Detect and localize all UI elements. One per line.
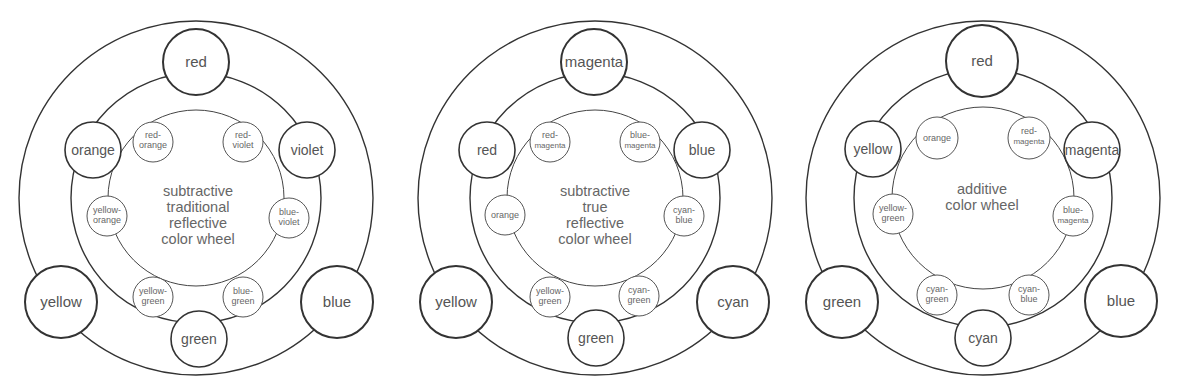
svg-text:orange: orange	[923, 133, 951, 143]
primary-node: blue	[301, 266, 373, 338]
svg-text:yellow-: yellow-	[879, 203, 907, 213]
tertiary-node: orange	[916, 117, 958, 159]
svg-text:blue-: blue-	[1063, 205, 1083, 215]
svg-text:cyan-: cyan-	[628, 285, 650, 295]
color-wheel-subtractive-traditional: subtractive traditional reflective color…	[0, 0, 394, 392]
secondary-node: violet	[279, 122, 335, 178]
svg-text:green: green	[231, 296, 254, 306]
wheel-title-line-3: reflective	[566, 215, 624, 231]
svg-text:violet: violet	[232, 140, 254, 150]
primary-node: cyan	[697, 266, 769, 338]
secondary-node: cyan	[955, 310, 1011, 366]
svg-text:cyan-: cyan-	[926, 284, 948, 294]
svg-text:violet: violet	[291, 142, 324, 158]
svg-text:yellow: yellow	[435, 293, 477, 310]
svg-text:green: green	[538, 296, 561, 306]
svg-text:yellow-: yellow-	[93, 205, 121, 215]
wheel-title-line-4: color wheel	[558, 231, 631, 247]
tertiary-node: cyan- blue	[1009, 275, 1049, 315]
wheel-diagram: additive color wheel orange red- magenta…	[790, 0, 1182, 392]
svg-text:green: green	[627, 295, 650, 305]
svg-text:orange: orange	[139, 140, 167, 150]
wheel-diagram: subtractive traditional reflective color…	[0, 0, 394, 392]
secondary-node: green	[171, 311, 227, 367]
svg-text:cyan: cyan	[717, 293, 749, 310]
secondary-node: magenta	[1064, 122, 1120, 178]
svg-text:magenta: magenta	[1013, 137, 1045, 146]
wheel-title-line-2: color wheel	[945, 197, 1018, 213]
tertiary-node: blue- magenta	[620, 122, 660, 162]
svg-text:yellow-: yellow-	[536, 286, 564, 296]
svg-text:red-: red-	[235, 130, 251, 140]
svg-text:blue: blue	[675, 215, 692, 225]
wheel-title-line-1: subtractive	[163, 183, 233, 199]
svg-text:green: green	[925, 294, 948, 304]
tertiary-node: yellow- orange	[87, 196, 127, 236]
tertiary-node: cyan- blue	[664, 196, 704, 236]
svg-text:cyan-: cyan-	[673, 205, 695, 215]
tertiary-node: cyan- green	[619, 276, 659, 316]
secondary-node: yellow	[845, 121, 901, 177]
svg-text:blue: blue	[323, 293, 351, 310]
svg-text:orange: orange	[491, 210, 519, 220]
wheel-title-line-1: additive	[957, 181, 1007, 197]
svg-text:green: green	[881, 213, 904, 223]
svg-text:yellow-: yellow-	[139, 286, 167, 296]
tertiary-node: red- violet	[223, 122, 263, 162]
svg-text:green: green	[181, 331, 217, 347]
svg-text:cyan: cyan	[968, 330, 998, 346]
svg-text:red-: red-	[542, 130, 558, 140]
secondary-node: green	[568, 310, 624, 366]
svg-text:red-: red-	[1021, 126, 1037, 136]
svg-text:blue-: blue-	[279, 207, 299, 217]
primary-node: blue	[1085, 265, 1157, 337]
tertiary-node: red- magenta	[1008, 117, 1050, 159]
svg-text:green: green	[578, 330, 614, 346]
tertiary-node: cyan- green	[917, 275, 957, 315]
tertiary-node: red- magenta	[530, 122, 570, 162]
tertiary-node: orange	[485, 195, 525, 235]
svg-text:blue: blue	[1020, 294, 1037, 304]
color-wheel-additive: additive color wheel orange red- magenta…	[790, 0, 1182, 392]
svg-text:orange: orange	[93, 215, 121, 225]
primary-node: magenta	[561, 29, 627, 95]
primary-node: green	[806, 266, 878, 338]
svg-text:violet: violet	[278, 217, 300, 227]
svg-text:red: red	[185, 53, 207, 70]
secondary-node: red	[459, 122, 515, 178]
tertiary-node: yellow- green	[530, 277, 570, 317]
svg-text:yellow: yellow	[40, 293, 82, 310]
color-wheel-subtractive-true: subtractive true reflective color wheel …	[395, 0, 789, 392]
svg-text:orange: orange	[71, 142, 115, 158]
wheel-title-line-2: true	[583, 199, 608, 215]
svg-text:red-: red-	[145, 130, 161, 140]
secondary-node: blue	[674, 122, 730, 178]
svg-text:magenta: magenta	[1057, 216, 1089, 225]
wheel-title-line-4: color wheel	[161, 231, 234, 247]
primary-node: red	[163, 29, 229, 95]
wheel-diagram: subtractive true reflective color wheel …	[395, 0, 789, 392]
tertiary-node: yellow- green	[133, 277, 173, 317]
svg-text:blue-: blue-	[630, 130, 650, 140]
svg-text:red: red	[971, 52, 993, 69]
primary-node: yellow	[25, 266, 97, 338]
svg-text:blue: blue	[1107, 292, 1135, 309]
secondary-node: orange	[65, 122, 121, 178]
tertiary-node: blue- green	[223, 277, 263, 317]
wheel-title-line-3: reflective	[169, 215, 227, 231]
svg-text:yellow: yellow	[854, 141, 894, 157]
tertiary-node: yellow- green	[873, 194, 913, 234]
wheel-title-line-2: traditional	[167, 199, 230, 215]
primary-node: yellow	[420, 266, 492, 338]
tertiary-node: red- orange	[133, 122, 173, 162]
svg-text:magenta: magenta	[565, 53, 624, 70]
svg-text:blue: blue	[689, 142, 716, 158]
svg-text:magenta: magenta	[534, 141, 566, 150]
svg-text:magenta: magenta	[1065, 142, 1120, 158]
primary-node: red	[946, 25, 1018, 97]
wheel-title-line-1: subtractive	[560, 183, 630, 199]
tertiary-node: blue- magenta	[1053, 196, 1093, 236]
svg-text:green: green	[141, 296, 164, 306]
svg-text:blue-: blue-	[233, 286, 253, 296]
tertiary-node: blue- violet	[269, 198, 309, 238]
